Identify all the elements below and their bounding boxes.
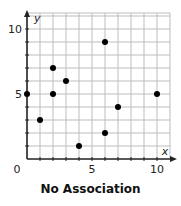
y-tick-label: 5 xyxy=(15,88,22,101)
x-tick-label: 5 xyxy=(89,163,96,176)
y-tick-label: 10 xyxy=(8,23,22,36)
data-point xyxy=(50,65,56,71)
x-axis-label: x xyxy=(161,145,169,158)
x-axis-arrow-icon xyxy=(170,156,177,162)
data-point xyxy=(50,91,56,97)
data-point xyxy=(76,143,82,149)
chart-title: No Association xyxy=(0,182,181,196)
axes xyxy=(24,10,177,162)
scatter-plot: 0510510xy xyxy=(0,0,181,180)
data-point xyxy=(102,39,108,45)
data-point xyxy=(102,130,108,136)
x-tick-label: 10 xyxy=(150,163,164,176)
y-axis-label: y xyxy=(33,12,41,25)
grid-lines xyxy=(27,13,170,159)
x-tick-label: 0 xyxy=(14,163,21,176)
data-point xyxy=(24,91,30,97)
data-point xyxy=(63,78,69,84)
data-point xyxy=(37,117,43,123)
data-point xyxy=(154,91,160,97)
data-point xyxy=(115,104,121,110)
